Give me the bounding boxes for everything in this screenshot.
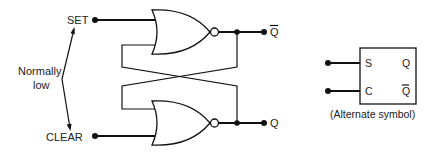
q-bar-pin-label: Q [402, 85, 410, 97]
top-nor-gate [152, 10, 219, 54]
sr-latch-diagram: SET CLEAR Normally low Q Q [0, 0, 429, 158]
arrow-up-icon [70, 26, 76, 34]
clear-label: CLEAR [46, 131, 83, 143]
q-bar-terminal [261, 29, 267, 35]
inverter-bubble [211, 28, 219, 36]
annotation-line-1: Normally [18, 65, 62, 77]
annotation-arrows [62, 26, 76, 131]
q-pin-label: Q [402, 57, 410, 69]
q-label: Q [270, 117, 279, 129]
annotation-line-2: low [33, 79, 50, 91]
s-pin-label: S [365, 57, 372, 69]
inverter-bubble [211, 119, 219, 127]
alternate-symbol-caption: (Alternate symbol) [330, 108, 415, 120]
q-bar-label: Q [270, 26, 279, 38]
q-terminal [261, 120, 267, 126]
set-label: SET [67, 14, 89, 26]
alternate-symbol: S C Q Q (Alternate symbol) [325, 48, 416, 120]
c-pin-label: C [365, 85, 373, 97]
bottom-nor-gate [152, 101, 219, 145]
